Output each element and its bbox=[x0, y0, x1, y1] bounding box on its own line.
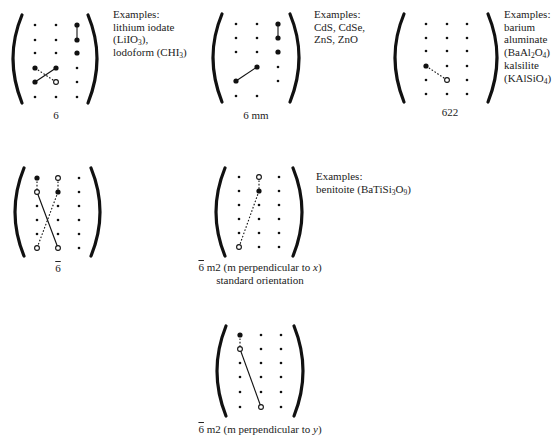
right-paren bbox=[488, 14, 497, 102]
left-paren bbox=[217, 326, 226, 416]
left-paren bbox=[13, 15, 22, 103]
right-paren bbox=[294, 326, 303, 416]
label-class-6: 6 bbox=[40, 109, 72, 122]
matrix-class-6bar bbox=[15, 168, 100, 256]
matrix-class-6bar-m2-y bbox=[217, 326, 303, 416]
right-paren bbox=[293, 168, 302, 256]
left-paren bbox=[15, 168, 24, 256]
examples-class-622: Examples: barium aluminate (BaAl2O4) kal… bbox=[504, 8, 551, 84]
matrix-class-6mm bbox=[213, 14, 299, 102]
examples-class-6mm: Examples: CdS, CdSe, ZnS, ZnO bbox=[314, 8, 365, 46]
label-class-6bar-m2-y: 6 m2 (m perpendicular to y) bbox=[180, 423, 340, 436]
left-paren bbox=[213, 14, 222, 102]
label-class-6bar: 6 bbox=[42, 262, 74, 275]
left-paren bbox=[395, 14, 404, 102]
tensor-matrix-figure: .paren { fill:none; stroke:#111; stroke-… bbox=[0, 0, 553, 445]
examples-class-6: Examples: lithium iodate (LiIO3), lodofo… bbox=[113, 8, 187, 59]
examples-class-6bar-m2-x: Examples: benitoite (BaTiSi3O9) bbox=[316, 170, 411, 195]
matrix-class-6 bbox=[13, 15, 97, 103]
right-paren bbox=[290, 14, 299, 102]
matrix-class-622 bbox=[395, 14, 497, 102]
label-class-622: 622 bbox=[430, 106, 470, 119]
right-paren bbox=[88, 15, 97, 103]
right-paren bbox=[91, 168, 100, 256]
left-paren bbox=[216, 168, 225, 256]
label-class-6bar-m2-x: 6 m2 (m perpendicular to x) standard ori… bbox=[180, 261, 340, 287]
matrix-class-6bar-m2-x bbox=[216, 168, 302, 256]
label-class-6mm: 6 mm bbox=[236, 109, 276, 122]
